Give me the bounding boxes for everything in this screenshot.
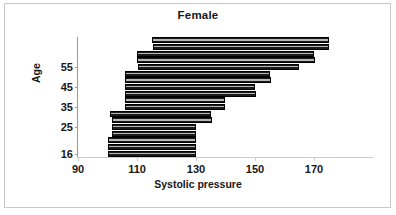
y-axis-tick (75, 107, 78, 108)
x-axis-title: Systolic pressure (0, 178, 396, 190)
y-axis-tick-label: 45 (61, 81, 73, 93)
y-axis-tick-label: 55 (61, 61, 73, 73)
bar-range (137, 51, 314, 57)
bar-range (125, 84, 255, 90)
x-axis-tick (314, 158, 315, 161)
bar-range (125, 91, 256, 97)
x-axis-tick (78, 158, 79, 161)
y-axis-tick-label: 25 (61, 121, 73, 133)
x-axis-tick (137, 158, 138, 161)
x-axis-tick-label: 90 (72, 163, 84, 175)
bar-range (125, 77, 271, 83)
x-axis-tick-label: 150 (246, 163, 264, 175)
y-axis-tick-label: 35 (61, 101, 73, 113)
bar-range (108, 144, 197, 150)
y-axis-title: Age (30, 63, 42, 83)
y-axis-tick (75, 154, 78, 155)
bar-range (112, 131, 196, 137)
bar-range (110, 111, 210, 117)
chart-figure: Female Age Systolic pressure 90110130150… (0, 0, 396, 215)
x-axis-line (77, 157, 373, 158)
x-axis-tick-label: 110 (128, 163, 146, 175)
bar-range (125, 97, 225, 103)
bar-range (152, 37, 329, 43)
x-axis-tick (255, 158, 256, 161)
bar-range (112, 117, 212, 123)
bar-range (125, 71, 270, 77)
chart-title: Female (0, 9, 396, 21)
bar-range (153, 44, 329, 50)
bar-range (108, 151, 197, 157)
y-axis-tick (75, 87, 78, 88)
bar-range (125, 104, 225, 110)
y-axis-tick (75, 127, 78, 128)
bar-range (108, 137, 197, 143)
x-axis-tick-label: 130 (187, 163, 205, 175)
x-axis-tick (196, 158, 197, 161)
plot-area: 90110130150170 5545352516 (78, 37, 373, 157)
y-axis-tick (75, 67, 78, 68)
bar-range (137, 57, 315, 63)
y-axis-tick-label: 16 (61, 148, 73, 160)
bar-range (112, 124, 196, 130)
x-axis-tick-label: 170 (305, 163, 323, 175)
bar-range (138, 64, 299, 70)
